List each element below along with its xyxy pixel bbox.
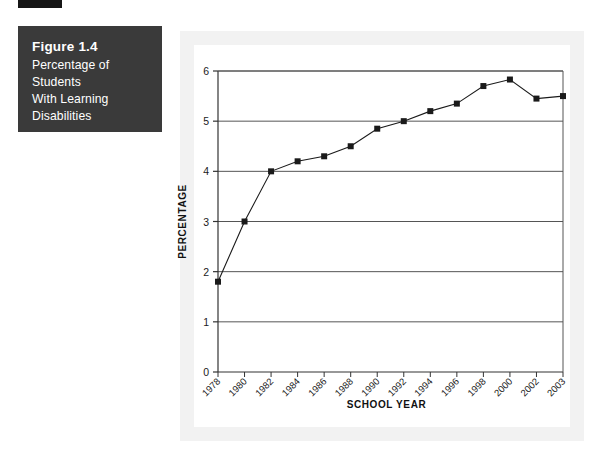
- figure-title-line-3: Disabilities: [32, 108, 152, 125]
- figure-title-line-1: Percentage of Students: [32, 57, 152, 91]
- figure-number: Figure 1.4: [32, 38, 152, 56]
- figure-title-line-2: With Learning: [32, 91, 152, 108]
- page-corner-tab: [18, 0, 62, 8]
- chart-inner-panel: [194, 45, 570, 427]
- figure-caption-box: Figure 1.4 Percentage of Students With L…: [18, 26, 162, 132]
